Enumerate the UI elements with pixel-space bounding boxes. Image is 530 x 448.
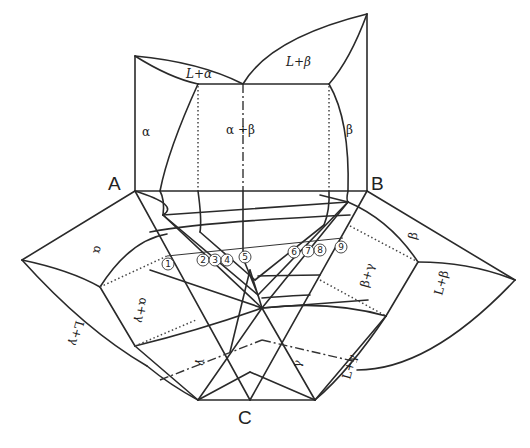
internal-line xyxy=(258,275,320,276)
liquidus-right xyxy=(243,14,367,84)
section-marker-5[interactable]: 5 xyxy=(239,251,251,263)
internal-line xyxy=(163,202,348,215)
label-l-beta-right: L+β xyxy=(431,269,451,297)
internal-line xyxy=(347,191,348,202)
right-eutectic-line xyxy=(386,262,418,316)
section-markers: 1 2 3 4 5 6 7 8 xyxy=(162,241,347,270)
vertex-a-label: A xyxy=(108,173,121,194)
label-alpha-beta: α +β xyxy=(226,123,255,137)
left-solvus-lower xyxy=(135,308,262,346)
label-alpha-top: α xyxy=(142,125,150,139)
label-l-beta-top: L+β xyxy=(285,55,311,69)
internal-line xyxy=(320,195,348,202)
section-marker-7[interactable]: 7 xyxy=(302,245,314,257)
section-marker-3[interactable]: 3 xyxy=(209,254,221,266)
svg-text:9: 9 xyxy=(338,242,344,252)
left-dotted-lower xyxy=(135,320,196,346)
right-c-edge xyxy=(250,372,315,400)
section-marker-8[interactable]: 8 xyxy=(314,244,326,256)
phase-diagram: α L+α α +β L+β β A B C xyxy=(0,0,530,448)
section-marker-1[interactable]: 1 xyxy=(162,258,174,270)
svg-text:3: 3 xyxy=(212,255,218,265)
right-dotted-lower xyxy=(320,280,386,316)
section-marker-9[interactable]: 9 xyxy=(335,241,347,253)
section-marker-4[interactable]: 4 xyxy=(221,254,233,266)
internal-line xyxy=(243,258,262,308)
solvus-beta xyxy=(329,84,348,191)
left-panel-edge xyxy=(22,191,135,260)
internal-line xyxy=(160,191,164,215)
solidus-right xyxy=(329,14,367,84)
label-l-gamma-right: L+γ xyxy=(339,353,359,381)
right-dashdot-line xyxy=(262,340,357,362)
section-marker-6[interactable]: 6 xyxy=(288,246,300,258)
label-l-alpha-left: L+γ xyxy=(67,319,87,347)
solvus-alpha xyxy=(160,84,198,191)
label-alpha-gamma-left: α+γ xyxy=(133,296,151,323)
label-beta-gamma-right: β+γ xyxy=(357,262,377,289)
svg-text:7: 7 xyxy=(305,246,311,256)
label-l-alpha-top: L+α xyxy=(185,67,212,81)
label-beta-right: β xyxy=(405,230,420,240)
svg-text:2: 2 xyxy=(200,255,206,265)
left-solidus-outer xyxy=(22,260,147,366)
top-binary-panel: α L+α α +β L+β β xyxy=(135,14,367,191)
svg-text:4: 4 xyxy=(224,255,230,265)
label-beta-top: β xyxy=(346,123,353,137)
section-marker-2[interactable]: 2 xyxy=(197,254,209,266)
left-solvus-upper xyxy=(100,234,167,287)
central-projection xyxy=(135,191,368,400)
internal-line xyxy=(262,308,315,400)
label-gamma-right: γ xyxy=(289,358,304,369)
vertex-b-label: B xyxy=(371,173,384,194)
right-solvus-lower xyxy=(262,305,386,316)
left-panel-lower-edge xyxy=(135,346,198,400)
right-panel-edge xyxy=(367,191,515,280)
svg-text:6: 6 xyxy=(291,247,297,257)
label-alpha-left: α xyxy=(90,244,106,255)
vertex-c-label: C xyxy=(238,407,252,428)
internal-line xyxy=(262,295,310,298)
svg-text:8: 8 xyxy=(317,245,323,255)
svg-text:1: 1 xyxy=(165,259,171,269)
left-gamma-curve xyxy=(147,366,198,400)
svg-text:5: 5 xyxy=(242,252,248,262)
